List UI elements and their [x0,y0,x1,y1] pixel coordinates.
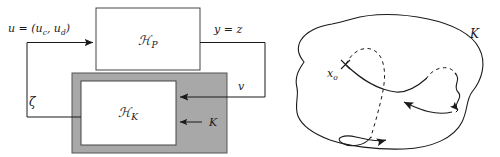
figure-svg: ℋP ℋK u = (uc, ud) y = z v ζ K [0,0,500,157]
set-boundary-path [296,15,483,150]
initial-state-label: xo [327,67,338,82]
flow-segment-2 [396,78,427,92]
jump-segment-3 [454,110,458,114]
feedback-signal-label: ζ [29,95,37,109]
jump-segment-1 [346,48,385,138]
measurement-signal-label: v [238,80,245,93]
input-signal-label: u = (uc, ud) [8,22,70,37]
flow-segment-4 [404,102,452,113]
state-space-panel: K xo [296,15,483,150]
figure-canvas: ℋP ℋK u = (uc, ud) y = z v ζ K [0,0,500,157]
output-signal-label: y = z [213,23,242,36]
flow-segment-3 [455,73,460,110]
set-label: K [469,27,480,41]
controller-set-label: K [208,116,218,129]
jump-segment-2 [426,68,456,79]
flow-segment-1 [346,65,396,92]
block-diagram-panel: ℋP ℋK u = (uc, ud) y = z v ζ K [8,8,265,153]
